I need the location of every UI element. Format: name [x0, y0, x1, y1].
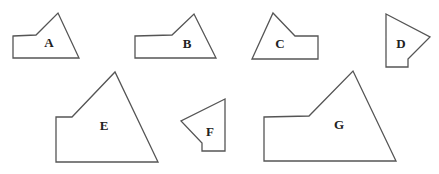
label-c: C [275, 37, 284, 50]
label-d: D [396, 37, 405, 50]
shape-d [386, 14, 430, 67]
shape-b [135, 14, 216, 58]
shape-f [181, 99, 225, 151]
label-e: E [100, 119, 109, 132]
label-g: G [334, 118, 344, 131]
label-a: A [44, 36, 53, 49]
shape-c [252, 13, 318, 59]
shapes-canvas [0, 0, 439, 174]
label-f: F [206, 125, 214, 138]
shape-g [264, 71, 396, 161]
label-b: B [183, 37, 192, 50]
